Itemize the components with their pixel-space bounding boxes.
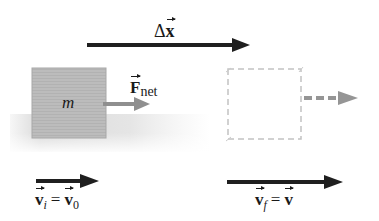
force-subscript: net	[140, 84, 157, 99]
net-force-arrow-icon	[103, 97, 150, 111]
diagram-canvas	[0, 0, 379, 221]
displacement-label: Δx	[154, 22, 175, 40]
mass-label: m	[62, 94, 74, 111]
displacement-var: x	[166, 22, 175, 40]
equals-sign: =	[47, 190, 65, 209]
initial-velocity-arrow-icon	[36, 174, 99, 188]
initial-velocity-label: vi=v0	[35, 191, 79, 208]
final-velocity-subscript: f	[264, 198, 267, 212]
equals-sign: =	[267, 190, 285, 209]
v0-subscript: 0	[73, 198, 79, 212]
force-symbol: F	[130, 79, 140, 96]
final-position-outline	[226, 67, 303, 141]
final-velocity-arrow-icon	[227, 175, 343, 189]
initial-velocity-symbol: v	[35, 191, 44, 208]
initial-velocity-subscript: i	[44, 198, 47, 212]
net-force-label: Fnet	[130, 79, 158, 96]
delta-symbol: Δ	[154, 21, 166, 41]
dashed-force-arrow-icon	[304, 91, 358, 105]
v0-symbol: v	[64, 191, 73, 208]
mass-symbol: m	[62, 93, 74, 112]
v-symbol: v	[284, 191, 293, 208]
final-velocity-symbol: v	[255, 191, 264, 208]
final-velocity-label: vf=v	[255, 191, 293, 208]
